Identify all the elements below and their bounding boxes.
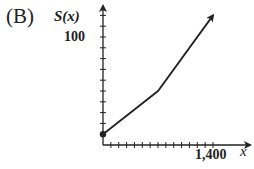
plot-area [0,0,254,169]
data-series [100,15,213,137]
series-line [103,15,213,134]
axis-ticks [100,15,213,148]
start-point-dot [100,131,106,137]
axes [103,6,250,145]
